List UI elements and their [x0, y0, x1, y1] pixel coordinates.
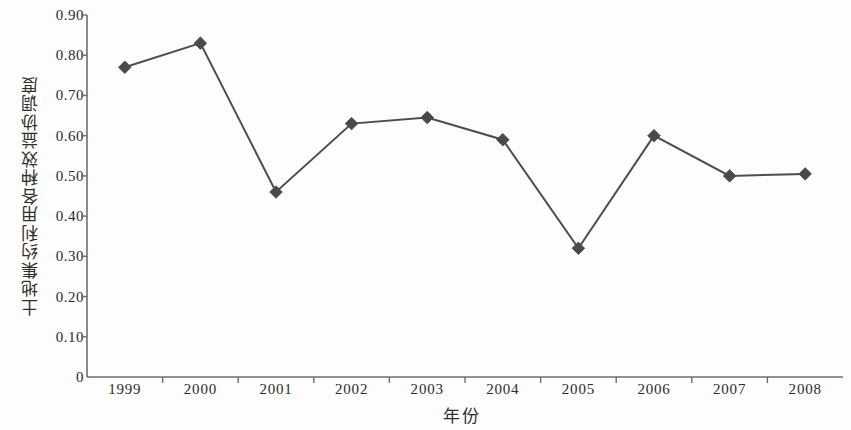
data-point-marker [497, 133, 509, 145]
data-point-marker [723, 170, 735, 182]
x-axis-tick-label: 2006 [637, 381, 670, 398]
data-point-marker [119, 61, 131, 73]
plot-area [0, 0, 851, 430]
x-axis-tick-label: 2008 [789, 381, 822, 398]
data-point-marker [194, 37, 206, 49]
x-axis-tick-label: 2000 [184, 381, 217, 398]
data-series-line [125, 43, 805, 248]
data-point-marker [648, 129, 660, 141]
data-point-marker [572, 242, 584, 254]
data-point-marker [421, 111, 433, 123]
x-axis-tick-label: 2003 [411, 381, 444, 398]
x-axis-title: 年份 [0, 402, 851, 427]
data-point-marker [799, 168, 811, 180]
x-axis-tick-label: 2004 [486, 381, 519, 398]
x-axis-tick-label: 2005 [562, 381, 595, 398]
x-axis-tick-label: 1999 [108, 381, 141, 398]
x-axis-tick-label: 2001 [259, 381, 292, 398]
x-axis-tick-label: 2002 [335, 381, 368, 398]
x-axis-title-text: 年份 [443, 406, 480, 426]
line-chart: 土地集约利用各种效益协调度 0.900.800.700.600.500.400.… [0, 0, 851, 430]
x-axis-tick-label: 2007 [713, 381, 746, 398]
